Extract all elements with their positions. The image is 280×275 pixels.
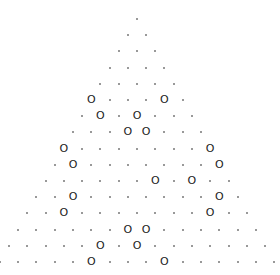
dot-marker bbox=[57, 174, 71, 188]
dot-marker bbox=[139, 190, 153, 204]
dot-marker bbox=[258, 239, 272, 253]
dot-marker bbox=[103, 61, 117, 75]
dot-triangle-pattern: OOOOOOOOOOOOOOOOOOOOOO bbox=[0, 0, 280, 275]
dot-marker bbox=[66, 125, 80, 139]
ring-marker: O bbox=[130, 109, 144, 123]
dot-marker bbox=[185, 142, 199, 156]
dot-marker bbox=[93, 206, 107, 220]
dot-marker bbox=[249, 255, 263, 269]
dot-marker bbox=[130, 44, 144, 58]
dot-marker bbox=[212, 255, 226, 269]
ring-marker: O bbox=[139, 223, 153, 237]
dot-marker bbox=[240, 206, 254, 220]
dot-marker bbox=[75, 174, 89, 188]
dot-marker bbox=[20, 206, 34, 220]
dot-marker bbox=[103, 158, 117, 172]
dot-marker bbox=[112, 174, 126, 188]
dot-marker bbox=[139, 61, 153, 75]
dot-marker bbox=[112, 44, 126, 58]
dot-marker bbox=[103, 190, 117, 204]
dot-marker bbox=[75, 206, 89, 220]
dot-marker bbox=[167, 109, 181, 123]
dot-marker bbox=[148, 142, 162, 156]
dot-marker bbox=[11, 255, 25, 269]
dot-marker bbox=[194, 255, 208, 269]
dot-marker bbox=[130, 142, 144, 156]
dot-marker bbox=[48, 255, 62, 269]
dot-marker bbox=[130, 12, 144, 26]
dot-marker bbox=[0, 255, 7, 269]
dot-marker bbox=[167, 142, 181, 156]
dot-marker bbox=[84, 223, 98, 237]
dot-marker bbox=[176, 255, 190, 269]
dot-marker bbox=[112, 239, 126, 253]
ring-marker: O bbox=[185, 174, 199, 188]
dot-marker bbox=[66, 223, 80, 237]
dot-marker bbox=[231, 190, 245, 204]
dot-marker bbox=[176, 93, 190, 107]
dot-marker bbox=[2, 239, 16, 253]
dot-marker bbox=[148, 239, 162, 253]
dot-marker bbox=[212, 223, 226, 237]
ring-marker: O bbox=[84, 93, 98, 107]
dot-marker bbox=[121, 190, 135, 204]
dot-marker bbox=[121, 28, 135, 42]
dot-marker bbox=[148, 109, 162, 123]
ring-marker: O bbox=[84, 255, 98, 269]
dot-marker bbox=[48, 190, 62, 204]
dot-marker bbox=[121, 255, 135, 269]
dot-marker bbox=[167, 174, 181, 188]
dot-marker bbox=[240, 239, 254, 253]
dot-marker bbox=[39, 174, 53, 188]
ring-marker: O bbox=[130, 239, 144, 253]
dot-marker bbox=[222, 239, 236, 253]
dot-marker bbox=[148, 44, 162, 58]
ring-marker: O bbox=[121, 125, 135, 139]
dot-marker bbox=[185, 206, 199, 220]
dot-marker bbox=[231, 255, 245, 269]
dot-marker bbox=[39, 239, 53, 253]
dot-marker bbox=[167, 77, 181, 91]
dot-marker bbox=[148, 206, 162, 220]
dot-marker bbox=[130, 206, 144, 220]
dot-marker bbox=[103, 93, 117, 107]
dot-marker bbox=[20, 239, 34, 253]
dot-marker bbox=[194, 190, 208, 204]
dot-marker bbox=[157, 190, 171, 204]
dot-marker bbox=[139, 93, 153, 107]
dot-marker bbox=[167, 239, 181, 253]
dot-marker bbox=[176, 223, 190, 237]
ring-marker: O bbox=[212, 190, 226, 204]
dot-marker bbox=[167, 206, 181, 220]
dot-marker bbox=[157, 61, 171, 75]
dot-marker bbox=[29, 223, 43, 237]
dot-marker bbox=[93, 174, 107, 188]
ring-marker: O bbox=[203, 206, 217, 220]
dot-marker bbox=[112, 206, 126, 220]
dot-marker bbox=[203, 174, 217, 188]
ring-marker: O bbox=[212, 158, 226, 172]
ring-marker: O bbox=[148, 174, 162, 188]
dot-marker bbox=[93, 77, 107, 91]
dot-marker bbox=[222, 206, 236, 220]
dot-marker bbox=[39, 206, 53, 220]
dot-marker bbox=[121, 93, 135, 107]
dot-marker bbox=[57, 239, 71, 253]
ring-marker: O bbox=[203, 142, 217, 156]
dot-marker bbox=[267, 255, 280, 269]
dot-marker bbox=[176, 158, 190, 172]
dot-marker bbox=[139, 158, 153, 172]
dot-marker bbox=[112, 77, 126, 91]
dot-marker bbox=[66, 255, 80, 269]
dot-marker bbox=[29, 255, 43, 269]
dot-marker bbox=[112, 142, 126, 156]
dot-marker bbox=[84, 125, 98, 139]
dot-marker bbox=[194, 125, 208, 139]
ring-marker: O bbox=[157, 255, 171, 269]
dot-marker bbox=[157, 125, 171, 139]
dot-marker bbox=[11, 223, 25, 237]
dot-marker bbox=[139, 255, 153, 269]
dot-marker bbox=[139, 28, 153, 42]
dot-marker bbox=[130, 77, 144, 91]
dot-marker bbox=[48, 223, 62, 237]
